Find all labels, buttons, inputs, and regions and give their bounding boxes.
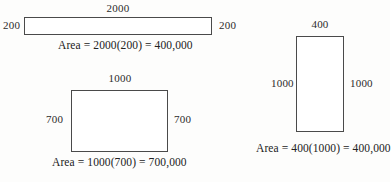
rectangle-2-top-dimension-label: 1000 bbox=[90, 72, 150, 85]
rectangle-shape-3 bbox=[296, 36, 344, 132]
rectangle-shape-2 bbox=[71, 90, 168, 152]
rectangle-3-top-dimension-label: 400 bbox=[290, 18, 350, 31]
rectangle-2-left-dimension-label: 700 bbox=[46, 113, 63, 126]
rectangle-1-left-dimension-label: 200 bbox=[3, 19, 20, 32]
rectangle-3-right-dimension-label: 1000 bbox=[350, 77, 373, 90]
rectangle-3-left-dimension-label: 1000 bbox=[271, 77, 294, 90]
rectangle-1-area-equation: Area = 2000(200) = 400,000 bbox=[58, 39, 193, 52]
figure-rectangle-2: 1000 700 700 Area = 1000(700) = 700,000 bbox=[0, 68, 250, 182]
rectangle-2-area-equation: Area = 1000(700) = 700,000 bbox=[52, 156, 187, 169]
rectangle-1-top-dimension-label: 2000 bbox=[88, 2, 148, 15]
rectangle-shape-1 bbox=[24, 17, 212, 35]
figure-rectangle-3: 400 1000 1000 Area = 400(1000) = 400,000 bbox=[250, 0, 390, 182]
rectangle-3-area-equation: Area = 400(1000) = 400,000 bbox=[256, 142, 391, 155]
rectangle-2-right-dimension-label: 700 bbox=[174, 113, 191, 126]
rectangle-1-right-dimension-label: 200 bbox=[219, 19, 236, 32]
figure-rectangle-1: 2000 200 200 Area = 2000(200) = 400,000 bbox=[0, 0, 250, 58]
